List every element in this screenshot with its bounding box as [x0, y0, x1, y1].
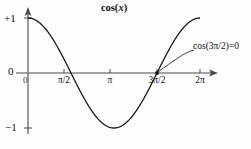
y-tick-label-zero: 0: [8, 66, 14, 77]
x-tick-label-pi-over-2: π/2: [50, 76, 78, 86]
cosine-plot-figure: cos(x) +1 0 −1 0 π/2 π 3π/2 2π cos(3π/2)…: [0, 0, 251, 149]
y-tick-label-minus-one: −1: [5, 122, 17, 133]
x-tick-label-two-pi: 2π: [188, 76, 212, 86]
x-tick-label-pi: π: [98, 76, 122, 86]
annotation-label: cos(3π/2)=0: [193, 42, 239, 52]
y-axis: [25, 7, 32, 134]
chart-title-fn: cos(: [101, 2, 119, 13]
x-axis-ticks: [64, 69, 200, 73]
chart-title-close: ): [124, 2, 128, 13]
chart-title: cos(x): [90, 3, 138, 14]
y-tick-label-plus-one: +1: [4, 13, 16, 24]
x-tick-label-three-pi-over-2: 3π/2: [141, 76, 173, 86]
plot-canvas: [0, 0, 251, 149]
origin-label: 0: [23, 76, 28, 85]
